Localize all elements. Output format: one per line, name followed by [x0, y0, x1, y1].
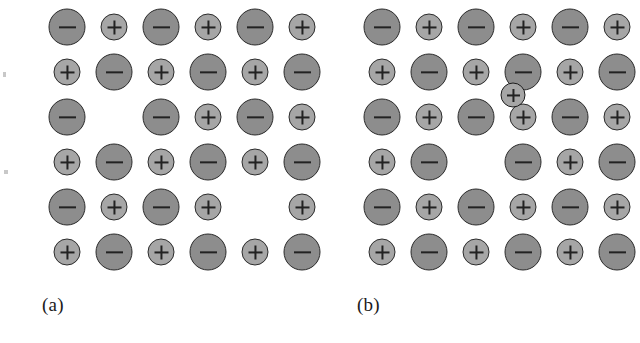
cation-ion — [148, 59, 175, 86]
minus-icon — [285, 55, 320, 90]
plus-icon — [102, 195, 127, 220]
cation-ion — [289, 14, 316, 41]
plus-icon — [370, 150, 395, 175]
anion-ion — [458, 99, 495, 136]
anion-ion — [364, 9, 401, 46]
cation-ion — [195, 14, 222, 41]
cation-ion — [604, 104, 631, 131]
anion-ion — [552, 189, 589, 226]
anion-ion — [49, 9, 86, 46]
minus-icon — [459, 10, 494, 45]
anion-ion — [458, 9, 495, 46]
minus-icon — [600, 145, 635, 180]
minus-icon — [600, 55, 635, 90]
minus-icon — [600, 235, 635, 270]
anion-ion — [505, 144, 542, 181]
plus-icon — [55, 60, 80, 85]
minus-icon — [144, 10, 179, 45]
plus-icon — [370, 240, 395, 265]
anion-ion — [143, 99, 180, 136]
cation-ion — [510, 104, 537, 131]
plus-icon — [290, 15, 315, 40]
anion-ion — [96, 54, 133, 91]
ionic-lattice-a — [36, 0, 336, 275]
anion-ion — [411, 234, 448, 271]
anion-ion — [284, 234, 321, 271]
panel-b-label: (b) — [357, 294, 380, 316]
plus-icon — [290, 195, 315, 220]
anion-ion — [599, 144, 636, 181]
cation-ion — [604, 14, 631, 41]
anion-ion — [599, 54, 636, 91]
vacancy-site — [96, 99, 133, 136]
cation-ion — [510, 14, 537, 41]
plus-icon — [558, 150, 583, 175]
plus-icon — [196, 15, 221, 40]
plus-icon — [417, 105, 442, 130]
minus-icon — [50, 190, 85, 225]
anion-ion — [96, 144, 133, 181]
cation-ion — [416, 104, 443, 131]
cation-ion — [101, 194, 128, 221]
cation-ion — [242, 59, 269, 86]
cation-ion — [369, 239, 396, 266]
anion-ion — [284, 144, 321, 181]
cation-ion — [54, 59, 81, 86]
anion-ion — [552, 9, 589, 46]
plus-icon — [417, 195, 442, 220]
plus-icon — [102, 15, 127, 40]
cation-ion — [557, 149, 584, 176]
minus-icon — [412, 235, 447, 270]
cation-ion — [557, 239, 584, 266]
plus-icon — [55, 150, 80, 175]
cation-ion — [604, 194, 631, 221]
minus-icon — [365, 10, 400, 45]
anion-ion — [237, 9, 274, 46]
plus-icon — [417, 15, 442, 40]
plus-icon — [55, 240, 80, 265]
plus-icon — [243, 150, 268, 175]
plus-icon — [502, 84, 525, 107]
cation-ion — [195, 194, 222, 221]
anion-ion — [284, 54, 321, 91]
minus-icon — [412, 145, 447, 180]
anion-ion — [49, 99, 86, 136]
minus-icon — [412, 55, 447, 90]
minus-icon — [191, 55, 226, 90]
anion-ion — [143, 189, 180, 226]
plus-icon — [196, 105, 221, 130]
plus-icon — [558, 240, 583, 265]
minus-icon — [365, 100, 400, 135]
cation-ion — [463, 239, 490, 266]
minus-icon — [191, 235, 226, 270]
anion-ion — [411, 54, 448, 91]
cation-ion — [195, 104, 222, 131]
anion-ion — [190, 54, 227, 91]
anion-ion — [237, 99, 274, 136]
cation-ion — [148, 149, 175, 176]
plus-icon — [149, 240, 174, 265]
panel-a: (a) — [36, 0, 336, 343]
minus-icon — [144, 100, 179, 135]
minus-icon — [50, 10, 85, 45]
anion-ion — [190, 144, 227, 181]
minus-icon — [553, 10, 588, 45]
anion-ion — [599, 234, 636, 271]
minus-icon — [506, 235, 541, 270]
minus-icon — [365, 190, 400, 225]
anion-ion — [190, 234, 227, 271]
plus-icon — [558, 60, 583, 85]
minus-icon — [506, 145, 541, 180]
anion-ion — [96, 234, 133, 271]
anion-ion — [552, 99, 589, 136]
panel-a-label: (a) — [42, 294, 64, 316]
plus-icon — [605, 15, 630, 40]
cation-ion — [54, 149, 81, 176]
cation-ion — [242, 239, 269, 266]
minus-icon — [553, 100, 588, 135]
plus-icon — [370, 60, 395, 85]
anion-ion — [143, 9, 180, 46]
vacancy-site — [458, 144, 495, 181]
minus-icon — [285, 235, 320, 270]
